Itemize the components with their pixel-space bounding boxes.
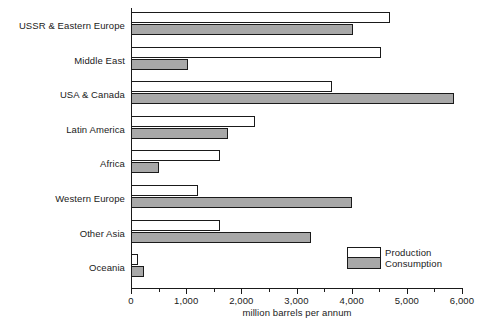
legend-swatches: [347, 247, 381, 269]
bar-production-6: [131, 220, 220, 231]
category-axis-labels: USSR & Eastern EuropeMiddle EastUSA & Ca…: [0, 8, 125, 288]
legend-swatch-consumption: [348, 258, 380, 268]
x-tick-minor-2500: [269, 289, 270, 292]
bar-consumption-2: [131, 93, 454, 104]
bar-consumption-3: [131, 128, 228, 139]
bar-production-3: [131, 116, 255, 127]
x-tick-label-3: 3,000: [284, 295, 308, 306]
legend-label-consumption: Consumption: [385, 258, 442, 269]
x-tick-major-6: [462, 289, 463, 294]
bar-consumption-6: [131, 232, 311, 243]
x-tick-minor-5500: [434, 289, 435, 292]
x-tick-label-6: 6,000: [450, 295, 474, 306]
x-tick-minor-4500: [379, 289, 380, 292]
bar-production-1: [131, 47, 381, 58]
bar-chart: USSR & Eastern EuropeMiddle EastUSA & Ca…: [0, 0, 482, 319]
x-tick-major-0: [131, 289, 132, 294]
plot-area: [131, 8, 462, 288]
x-tick-major-5: [407, 289, 408, 294]
x-tick-label-0: 0: [128, 295, 133, 306]
x-tick-minor-3500: [324, 289, 325, 292]
x-tick-label-1: 1,000: [174, 295, 198, 306]
bar-production-7: [131, 254, 138, 265]
category-label-7: Oceania: [89, 262, 125, 273]
legend-swatch-production: [348, 248, 380, 258]
category-label-0: USSR & Eastern Europe: [19, 20, 125, 31]
bar-consumption-7: [131, 266, 144, 277]
bar-production-4: [131, 150, 220, 161]
bar-production-2: [131, 81, 332, 92]
legend-label-production: Production: [385, 247, 442, 258]
x-tick-label-4: 4,000: [340, 295, 364, 306]
category-label-6: Other Asia: [80, 228, 125, 239]
category-label-3: Latin America: [66, 124, 125, 135]
x-tick-label-2: 2,000: [229, 295, 253, 306]
legend: Production Consumption: [347, 247, 442, 269]
bar-consumption-1: [131, 59, 188, 70]
bar-production-5: [131, 185, 198, 196]
bar-consumption-4: [131, 162, 159, 173]
x-tick-major-1: [186, 289, 187, 294]
x-axis-title: million barrels per annum: [131, 307, 463, 318]
x-tick-minor-1500: [214, 289, 215, 292]
bar-consumption-5: [131, 197, 352, 208]
x-tick-major-4: [352, 289, 353, 294]
legend-labels: Production Consumption: [385, 247, 442, 269]
bar-production-0: [131, 12, 390, 23]
x-tick-label-5: 5,000: [395, 295, 419, 306]
x-tick-minor-500: [159, 289, 160, 292]
category-label-4: Africa: [100, 158, 125, 169]
x-tick-major-2: [241, 289, 242, 294]
category-label-2: USA & Canada: [60, 89, 125, 100]
x-tick-major-3: [297, 289, 298, 294]
category-label-1: Middle East: [74, 55, 125, 66]
bar-consumption-0: [131, 24, 353, 35]
category-label-5: Western Europe: [55, 193, 125, 204]
